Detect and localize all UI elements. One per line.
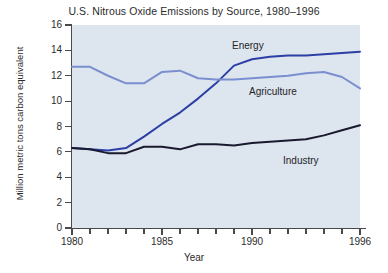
series-label-agriculture: Agriculture [249,86,297,97]
series-lines [0,0,388,273]
series-label-industry: Industry [283,155,319,166]
series-line-energy [72,52,360,151]
series-label-energy: Energy [232,40,264,51]
chart-figure: U.S. Nitrous Oxide Emissions by Source, … [0,0,388,273]
series-line-agriculture [72,67,360,89]
x-axis-title: Year [0,252,388,263]
y-axis-title: Million metric tons carbon equivalent [14,19,25,229]
